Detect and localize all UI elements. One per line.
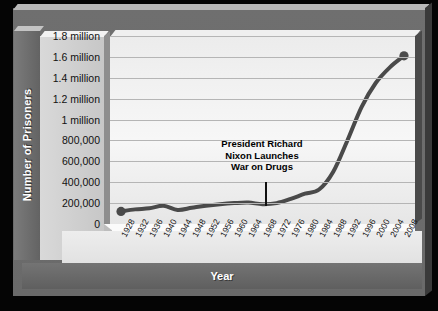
data-point-marker <box>399 51 408 60</box>
y-axis-tick-label: 1.2 million <box>53 93 100 105</box>
y-axis-tick-label: 0 <box>94 218 100 230</box>
gridline <box>110 120 415 121</box>
y-axis-tick-label: 1 million <box>61 114 100 126</box>
annotation-line-3: War on Drugs <box>192 161 332 173</box>
figure-frame-top-bevel <box>13 4 430 10</box>
annotation-pointer-line <box>265 182 267 206</box>
gridline <box>110 203 415 204</box>
y-axis-tick-label: 800,000 <box>62 134 100 146</box>
chart-figure: Number of Prisoners 0200,000400,000600,0… <box>0 0 438 311</box>
annotation-line-1: President Richard <box>192 138 332 150</box>
figure-frame-right-bevel <box>425 3 432 296</box>
x-axis-title: Year <box>22 263 422 289</box>
gridline <box>110 182 415 183</box>
annotation-text: President Richard Nixon Launches War on … <box>192 138 332 173</box>
gridline <box>110 99 415 100</box>
data-point-marker <box>116 207 125 216</box>
y-axis-tick-label: 1.6 million <box>53 51 100 63</box>
annotation-line-2: Nixon Launches <box>192 150 332 162</box>
y-axis-tick-label: 200,000 <box>62 197 100 209</box>
plot-area <box>110 36 415 224</box>
y-axis-tick-label: 1.4 million <box>53 72 100 84</box>
plot-area-right-bevel <box>415 31 422 224</box>
gridline <box>110 78 415 79</box>
data-line-series <box>110 36 415 224</box>
data-line <box>121 56 404 212</box>
y-axis-tick-labels: 0200,000400,000600,000800,0001 million1.… <box>40 36 100 260</box>
y-axis-tick-label: 400,000 <box>62 176 100 188</box>
y-axis-tick-label: 1.8 million <box>53 30 100 42</box>
y-axis-title: Number of Prisoners <box>14 30 40 260</box>
y-axis-tick-label: 600,000 <box>62 155 100 167</box>
gridline <box>110 57 415 58</box>
x-axis-tick-labels: 1928193219361940194419481952195619601964… <box>110 232 415 264</box>
gridline <box>110 36 415 37</box>
